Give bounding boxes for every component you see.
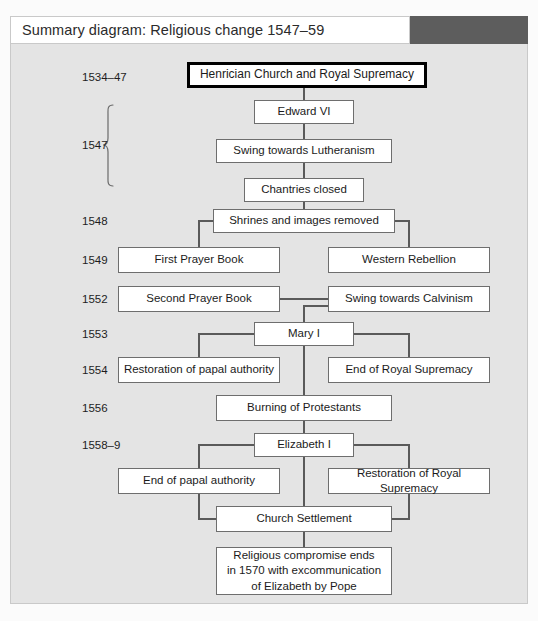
node-label: Church Settlement [252, 511, 355, 526]
node-label: Burning of Protestants [243, 400, 365, 415]
year-label-1553: 1553 [82, 329, 108, 341]
node-burning-of-protestants[interactable]: Burning of Protestants [216, 395, 392, 421]
node-western-rebellion[interactable]: Western Rebellion [328, 247, 490, 273]
node-label: Swing towards Calvinism [341, 291, 477, 306]
page-title: Summary diagram: Religious change 1547–5… [11, 22, 324, 38]
node-label: First Prayer Book [151, 252, 248, 267]
node-restoration-of-royal-supremacy[interactable]: Restoration of Royal Supremacy [328, 468, 490, 494]
node-label: End of Royal Supremacy [341, 362, 476, 377]
node-religious-compromise-ends[interactable]: Religious compromise ends in 1570 with e… [216, 547, 392, 595]
node-label: End of papal authority [139, 473, 259, 488]
node-label: Mary I [284, 326, 324, 341]
node-label: Restoration of Royal Supremacy [329, 466, 489, 496]
year-label-1558-9: 1558–9 [82, 440, 120, 452]
node-restoration-of-papal-authority[interactable]: Restoration of papal authority [118, 357, 280, 383]
node-label: Elizabeth I [273, 437, 335, 452]
node-label: Edward VI [273, 104, 334, 119]
node-label: Restoration of papal authority [120, 362, 278, 377]
node-label: Henrician Church and Royal Supremacy [196, 67, 418, 83]
node-swing-towards-lutheranism[interactable]: Swing towards Lutheranism [216, 139, 392, 163]
title-bar-white-section: Summary diagram: Religious change 1547–5… [10, 16, 410, 44]
node-end-of-papal-authority[interactable]: End of papal authority [118, 468, 280, 494]
node-second-prayer-book[interactable]: Second Prayer Book [118, 286, 280, 312]
node-label: Shrines and images removed [225, 213, 383, 228]
node-end-of-royal-supremacy[interactable]: End of Royal Supremacy [328, 357, 490, 383]
node-swing-towards-calvinism[interactable]: Swing towards Calvinism [328, 286, 490, 312]
diagram-canvas: 1534–47 1547 1548 1549 1552 1553 1554 15… [10, 44, 528, 604]
year-label-1547: 1547 [82, 140, 108, 152]
node-chantries-closed[interactable]: Chantries closed [244, 178, 364, 202]
year-label-1534-47: 1534–47 [82, 72, 127, 84]
diagram-page: Summary diagram: Religious change 1547–5… [0, 0, 538, 621]
year-label-1556: 1556 [82, 403, 108, 415]
node-label: Chantries closed [257, 182, 351, 197]
title-bar-accent-block [410, 16, 528, 44]
node-shrines-and-images-removed[interactable]: Shrines and images removed [213, 209, 395, 233]
node-elizabeth-i[interactable]: Elizabeth I [254, 433, 354, 457]
node-label: Second Prayer Book [142, 291, 255, 306]
year-label-1548: 1548 [82, 216, 108, 228]
diagram-title-bar: Summary diagram: Religious change 1547–5… [10, 16, 528, 44]
node-label: Religious compromise ends in 1570 with e… [223, 548, 385, 594]
node-henrician-church[interactable]: Henrician Church and Royal Supremacy [187, 62, 427, 88]
node-mary-i[interactable]: Mary I [254, 322, 354, 346]
year-label-1554: 1554 [82, 365, 108, 377]
node-label: Western Rebellion [358, 252, 460, 267]
year-label-1549: 1549 [82, 255, 108, 267]
node-edward-vi[interactable]: Edward VI [254, 100, 354, 124]
node-label: Swing towards Lutheranism [229, 143, 378, 158]
node-church-settlement[interactable]: Church Settlement [216, 506, 392, 532]
year-label-1552: 1552 [82, 294, 108, 306]
node-first-prayer-book[interactable]: First Prayer Book [118, 247, 280, 273]
